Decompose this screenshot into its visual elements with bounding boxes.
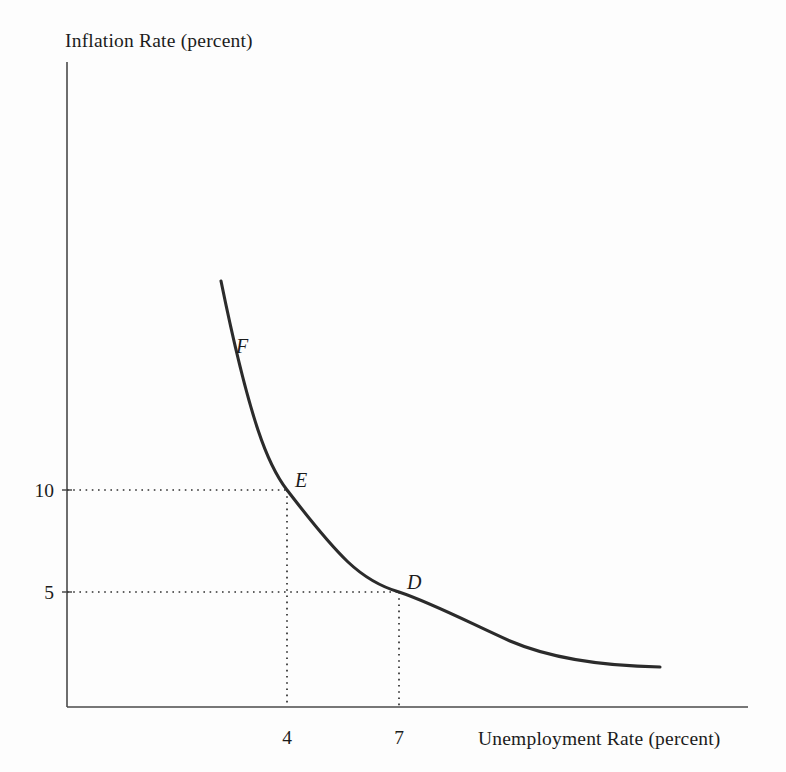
chart-canvas: Inflation Rate (percent) Unemployment Ra… [0,0,786,772]
x-axis-title: Unemployment Rate (percent) [478,728,721,750]
ytick-label-5: 5 [44,582,54,603]
xtick-label-7: 7 [394,727,404,748]
point-label-d: D [406,571,422,593]
ytick-label-10: 10 [35,480,55,501]
point-label-f: F [235,335,249,357]
point-label-e: E [294,469,307,491]
chart-background [0,0,786,772]
y-axis-title: Inflation Rate (percent) [65,30,253,52]
xtick-label-4: 4 [282,727,292,748]
phillips-curve-figure: Inflation Rate (percent) Unemployment Ra… [0,0,786,772]
